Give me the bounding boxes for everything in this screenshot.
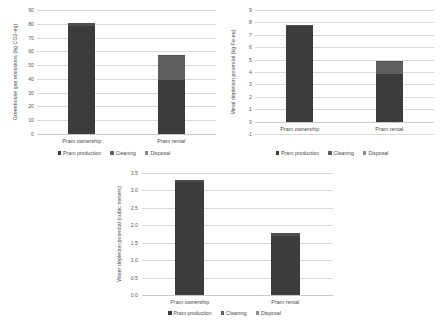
y-tick-label: 9	[249, 7, 252, 13]
chart-legend: Pram production Cleaning Disposal	[112, 310, 337, 316]
gridline	[37, 134, 216, 135]
y-tick-label: 2	[249, 94, 252, 100]
gridline	[142, 278, 333, 279]
y-tick-label: 0.0	[131, 292, 138, 298]
legend-label-production: Pram production	[63, 150, 101, 156]
gridline	[37, 24, 216, 25]
legend-label-cleaning: Cleaning	[226, 310, 246, 316]
y-tick-label: 30	[28, 90, 34, 96]
y-tick-label: 50	[28, 62, 34, 68]
gridline	[37, 106, 216, 107]
bar-segment-prod	[175, 182, 204, 295]
plot-area	[142, 173, 333, 295]
bar-segment-disp	[68, 23, 95, 26]
legend-item-production: Pram production	[276, 150, 319, 156]
y-tick-label: 0	[249, 119, 252, 125]
legend-item-production: Pram production	[58, 150, 101, 156]
y-axis-ticks: 0102030405060708090	[21, 10, 35, 134]
legend-item-cleaning: Cleaning	[110, 150, 136, 156]
gridline	[37, 120, 216, 121]
x-tick-label: Pram ownership	[170, 299, 209, 305]
gridline	[255, 109, 434, 110]
legend-label-cleaning: Cleaning	[116, 150, 136, 156]
gridline	[255, 22, 434, 23]
gridline	[255, 47, 434, 48]
x-axis-labels: Pram ownershipPram rental	[255, 126, 434, 136]
legend-swatch-disposal	[145, 151, 148, 154]
bar-pram-ownership	[175, 173, 204, 295]
legend-label-disposal: Disposal	[150, 150, 170, 156]
gridline	[255, 10, 434, 11]
gridline	[142, 295, 333, 296]
y-tick-label: 8	[249, 19, 252, 25]
legend-swatch-production	[276, 151, 279, 154]
gridline	[37, 93, 216, 94]
bar-pram-ownership	[68, 10, 95, 134]
legend-item-disposal: Disposal	[256, 310, 281, 316]
bar-segment-disp	[158, 55, 185, 56]
y-tick-label: 1.0	[131, 257, 138, 263]
legend-item-cleaning: Cleaning	[328, 150, 354, 156]
y-tick-label: 70	[28, 35, 34, 41]
legend-item-cleaning: Cleaning	[221, 310, 247, 316]
y-tick-label: 5	[249, 57, 252, 63]
figure-panel: Greenhouse gas emissions (kg CO2-eq) 010…	[0, 0, 444, 329]
bar-segment-clean	[376, 62, 403, 74]
legend-label-cleaning: Cleaning	[334, 150, 354, 156]
y-tick-label: 4	[249, 69, 252, 75]
bar-segment-prod	[271, 236, 300, 295]
gridline	[255, 84, 434, 85]
y-tick-label: 40	[28, 76, 34, 82]
gridline	[37, 51, 216, 52]
bar-segment-prod	[376, 74, 403, 122]
x-tick-label: Pram rental	[157, 138, 185, 144]
y-tick-label: 3	[249, 81, 252, 87]
y-axis-ticks: 0.00.51.01.52.02.53.03.5	[125, 173, 139, 295]
y-tick-label: 0	[31, 131, 34, 137]
gridline	[37, 38, 216, 39]
legend-swatch-cleaning	[328, 151, 331, 154]
chart-metal-depletion: Metal depletion potential (kg Fe-eq) -10…	[226, 6, 438, 164]
bar-segment-clean	[158, 55, 185, 80]
legend-label-disposal: Disposal	[368, 150, 388, 156]
legend-swatch-cleaning	[110, 151, 113, 154]
chart-greenhouse-gas: Greenhouse gas emissions (kg CO2-eq) 010…	[8, 6, 220, 164]
y-tick-label: 2.0	[131, 222, 138, 228]
legend-swatch-disposal	[256, 311, 259, 314]
gridline	[255, 35, 434, 36]
bar-pram-rental	[271, 173, 300, 295]
gridline	[142, 208, 333, 209]
y-tick-label: 60	[28, 48, 34, 54]
chart-legend: Pram production Cleaning Disposal	[8, 150, 220, 156]
y-tick-label: 1	[249, 106, 252, 112]
plot-area	[37, 10, 216, 134]
x-tick-label: Pram ownership	[62, 138, 101, 144]
bar-pram-ownership	[286, 10, 313, 122]
y-tick-label: 3.0	[131, 187, 138, 193]
bar-pram-rental	[376, 10, 403, 122]
x-tick-label: Pram ownership	[280, 126, 319, 132]
x-axis-labels: Pram ownershipPram rental	[142, 299, 333, 309]
gridline	[255, 72, 434, 73]
plot-area	[255, 10, 434, 134]
gridline	[142, 260, 333, 261]
y-tick-label: 7	[249, 32, 252, 38]
gridline	[255, 122, 434, 123]
legend-item-disposal: Disposal	[363, 150, 388, 156]
bar-segment-prod	[286, 26, 313, 121]
bar-segment-disp	[271, 233, 300, 235]
legend-label-production: Pram production	[174, 310, 212, 316]
y-tick-label: 80	[28, 21, 34, 27]
x-tick-label: Pram rental	[271, 299, 299, 305]
legend-item-disposal: Disposal	[145, 150, 170, 156]
y-tick-label: 20	[28, 103, 34, 109]
legend-swatch-cleaning	[221, 311, 224, 314]
legend-swatch-disposal	[363, 151, 366, 154]
chart-legend: Pram production Cleaning Disposal	[226, 150, 438, 156]
legend-swatch-production	[58, 151, 61, 154]
legend-label-disposal: Disposal	[261, 310, 281, 316]
bar-pram-rental	[158, 10, 185, 134]
x-tick-label: Pram rental	[375, 126, 403, 132]
x-axis-labels: Pram ownershipPram rental	[37, 138, 216, 148]
bar-segment-disp	[286, 25, 313, 26]
